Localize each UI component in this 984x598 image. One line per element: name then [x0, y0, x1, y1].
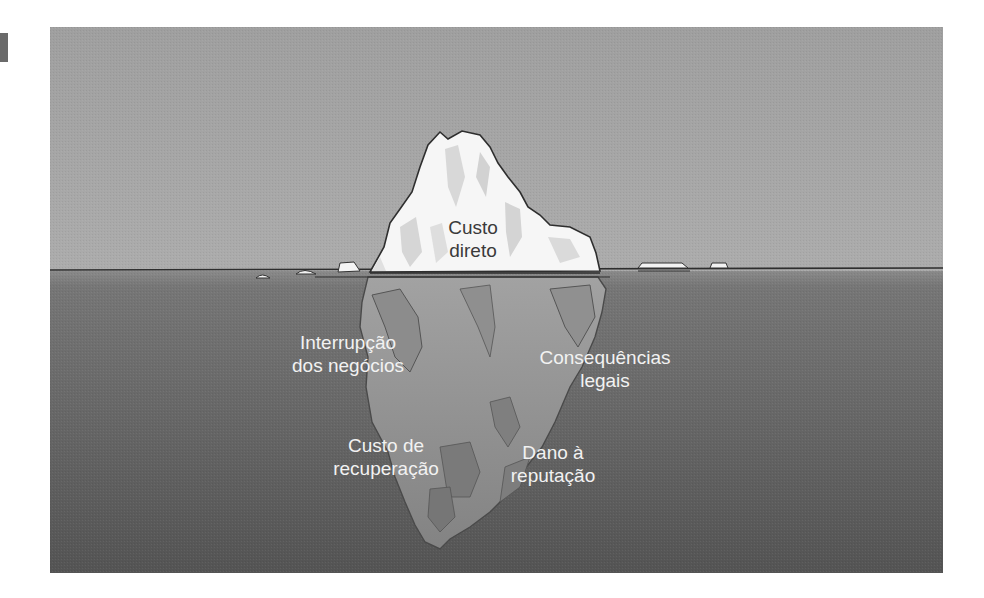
label-business-interruption: Interrupção dos negócios [278, 331, 418, 377]
ice-floe [638, 263, 688, 268]
iceberg-scene [50, 27, 943, 573]
margin-tick-mark [0, 33, 8, 62]
iceberg-illustration: Custo direto Interrupção dos negócios Co… [50, 27, 943, 573]
label-legal-consequences: Consequências legais [530, 346, 680, 392]
label-direct-cost: Custo direto [428, 216, 518, 262]
ice-floe [710, 263, 728, 268]
label-reputation-damage: Dano à reputação [498, 441, 608, 487]
label-recovery-cost: Custo de recuperação [322, 434, 450, 480]
